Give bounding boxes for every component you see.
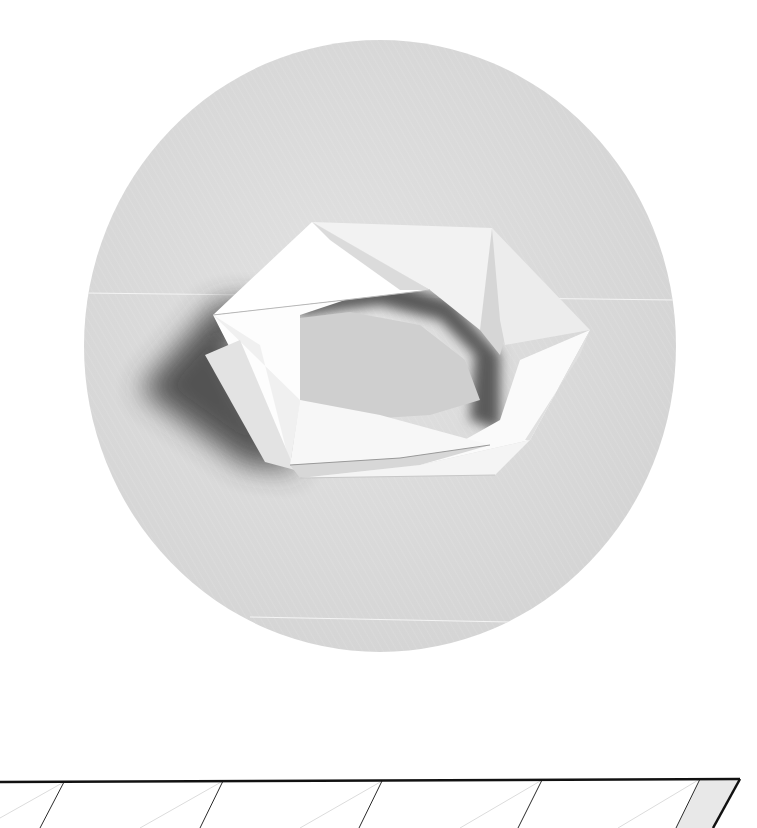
folded-ring-photo (0, 0, 757, 700)
valley-fold-lines (0, 779, 700, 828)
strip-top-edge (0, 779, 740, 782)
strip-end-shaded (676, 779, 740, 828)
crease-pattern-strip (0, 760, 757, 828)
mountain-fold-lines (40, 779, 700, 828)
